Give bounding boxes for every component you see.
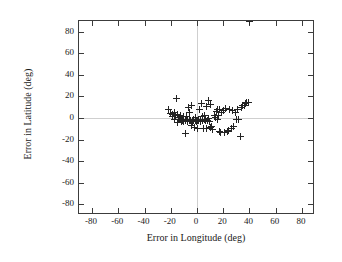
data-point-marker xyxy=(174,119,181,126)
data-point-marker xyxy=(186,109,193,116)
x-axis-tick-top xyxy=(171,21,172,26)
data-point-marker xyxy=(245,99,252,106)
data-point-marker xyxy=(229,107,236,114)
y-axis-tick-label: 40 xyxy=(50,69,74,79)
data-point-marker xyxy=(207,101,214,108)
data-point-marker xyxy=(237,133,244,140)
data-point-marker xyxy=(221,129,228,136)
data-point-marker xyxy=(242,100,249,107)
data-point-marker xyxy=(185,104,192,111)
y-axis-tick xyxy=(79,75,84,76)
data-point-marker xyxy=(230,123,237,130)
y-axis-tick xyxy=(79,161,84,162)
data-point-marker xyxy=(205,97,212,104)
zero-longitude-reference-line xyxy=(197,21,198,213)
data-point-marker xyxy=(167,110,174,117)
x-axis-tick-top xyxy=(197,21,198,26)
data-point-marker xyxy=(224,128,231,135)
y-axis-tick-right xyxy=(308,75,313,76)
data-point-marker xyxy=(214,106,221,113)
data-point-marker xyxy=(165,106,172,113)
x-axis-tick xyxy=(171,208,172,213)
y-axis-tick xyxy=(79,140,84,141)
data-point-marker xyxy=(243,99,250,106)
data-point-marker xyxy=(207,124,214,131)
data-point-marker xyxy=(203,125,210,132)
x-axis-tick-top xyxy=(249,21,250,26)
data-point-marker xyxy=(183,113,190,120)
data-point-marker xyxy=(184,116,191,123)
x-axis-tick-top xyxy=(145,21,146,26)
y-axis-tick xyxy=(79,118,84,119)
y-axis-tick xyxy=(79,32,84,33)
zero-latitude-reference-line xyxy=(79,118,313,119)
data-point-marker xyxy=(214,116,221,123)
y-axis-tick xyxy=(79,183,84,184)
data-point-marker xyxy=(222,105,229,112)
data-point-marker xyxy=(213,108,220,115)
plot-frame xyxy=(78,20,314,214)
data-point-marker xyxy=(228,125,235,132)
x-axis-tick-top xyxy=(276,21,277,26)
data-point-marker xyxy=(217,129,224,136)
data-point-marker xyxy=(239,102,246,109)
x-axis-tick xyxy=(145,208,146,213)
data-point-marker xyxy=(171,109,178,116)
y-axis-tick-right xyxy=(308,161,313,162)
data-point-marker xyxy=(216,106,223,113)
x-axis-tick-label: 80 xyxy=(286,216,316,226)
data-point-marker xyxy=(173,95,180,102)
y-axis-tick-label: 20 xyxy=(50,90,74,100)
x-axis-tick-top xyxy=(223,21,224,26)
x-axis-title: Error in Longitude (deg) xyxy=(78,232,314,244)
x-axis-tick xyxy=(197,208,198,213)
data-point-marker xyxy=(198,100,205,107)
y-axis-title: Error in Latitude (deg) xyxy=(22,24,34,204)
y-axis-tick-label: -60 xyxy=(50,177,74,187)
data-point-marker xyxy=(182,130,189,137)
x-axis-tick xyxy=(92,208,93,213)
y-axis-tick-right xyxy=(308,140,313,141)
y-axis-tick xyxy=(79,53,84,54)
y-axis-tick-right xyxy=(308,32,313,33)
x-axis-tick xyxy=(223,208,224,213)
y-axis-tick-label: -80 xyxy=(50,198,74,208)
data-point-marker xyxy=(220,107,227,114)
y-axis-tick-right xyxy=(308,183,313,184)
y-axis-tick-label: 60 xyxy=(50,47,74,57)
data-point-marker xyxy=(200,125,207,132)
x-axis-tick xyxy=(118,208,119,213)
data-point-marker xyxy=(188,102,195,109)
y-axis-tick-right xyxy=(308,53,313,54)
x-axis-tick-top xyxy=(118,21,119,26)
data-point-marker xyxy=(203,103,210,110)
data-point-marker xyxy=(218,109,225,116)
x-axis-tick-top xyxy=(302,21,303,26)
data-point-marker xyxy=(174,111,181,118)
data-point-marker xyxy=(188,122,195,129)
y-axis-tick-label: 80 xyxy=(50,26,74,36)
y-axis-tick-label: -20 xyxy=(50,134,74,144)
x-axis-tick xyxy=(249,208,250,213)
data-point-marker xyxy=(209,126,216,133)
plot-area xyxy=(79,21,313,213)
x-axis-tick-top xyxy=(92,21,93,26)
data-point-marker xyxy=(238,104,245,111)
y-axis-tick xyxy=(79,204,84,205)
data-point-marker xyxy=(216,128,223,135)
data-point-marker xyxy=(171,116,178,123)
y-axis-tick-label: 0 xyxy=(50,112,74,122)
y-axis-tick-label: -40 xyxy=(50,155,74,165)
data-point-marker xyxy=(206,118,213,125)
data-point-marker xyxy=(241,102,248,109)
y-axis-tick-right xyxy=(308,96,313,97)
data-point-marker xyxy=(199,113,206,120)
y-axis-tick-right xyxy=(308,118,313,119)
data-point-marker xyxy=(234,106,241,113)
data-point-marker xyxy=(225,127,232,134)
y-axis-tick xyxy=(79,96,84,97)
data-point-marker xyxy=(226,106,233,113)
scatter-plot-figure: -80-60-40-20020406080-80-60-40-200204060… xyxy=(0,0,342,262)
x-axis-tick xyxy=(276,208,277,213)
data-point-marker xyxy=(178,118,185,125)
